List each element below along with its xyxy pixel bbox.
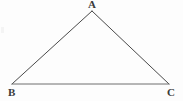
vertex-label-b: B [8,87,15,97]
geometry-figure-canvas: A B C [0,0,183,101]
triangle-edge-ac [92,11,169,84]
scan-artifact-speck [1,27,4,33]
triangle-diagram [0,0,183,101]
triangle-edge-ab [12,11,92,84]
vertex-label-a: A [88,0,96,9]
vertex-label-c: C [167,87,175,97]
